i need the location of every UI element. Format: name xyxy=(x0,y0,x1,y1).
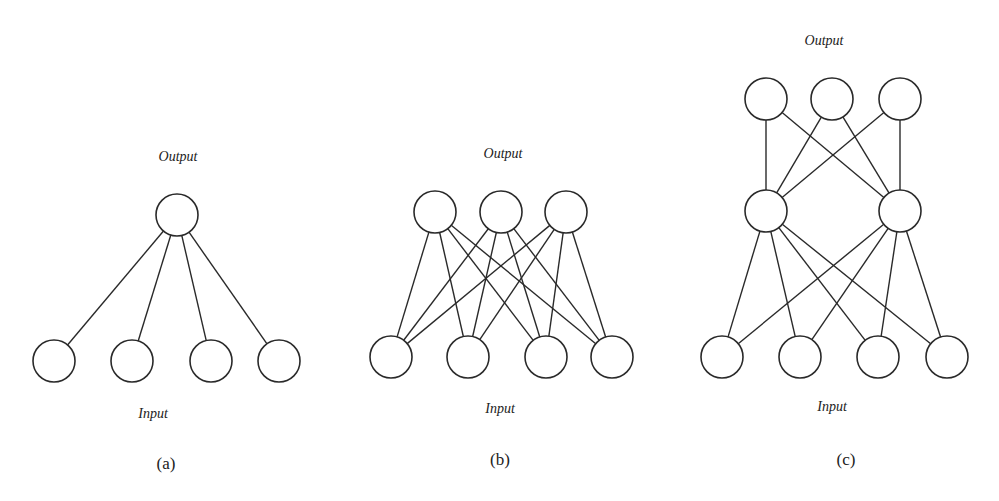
panel-b-edge xyxy=(451,225,596,343)
panel-c-edge xyxy=(738,224,884,343)
panel-c-edge xyxy=(782,224,930,344)
panel-c-caption: (c) xyxy=(837,450,856,469)
panel-b-output-node-1 xyxy=(414,191,456,233)
panel-a-edge xyxy=(189,232,267,344)
panel-c-hidden-node-2 xyxy=(879,190,921,232)
panel-b-output-node-3 xyxy=(545,191,587,233)
panel-c-hidden-node-1 xyxy=(745,190,787,232)
panel-b-input-label: Input xyxy=(484,401,516,416)
panel-b-edge xyxy=(397,232,429,337)
panel-c-edge xyxy=(771,231,795,336)
panel-b-output-node-2 xyxy=(480,191,522,233)
panel-a-input-node-4 xyxy=(258,340,300,382)
panel-a-edge xyxy=(68,231,164,345)
panel-a-edge xyxy=(138,235,171,341)
panel-a-input-node-3 xyxy=(190,340,232,382)
panel-c-input-node-3 xyxy=(857,336,899,378)
panel-b-edge xyxy=(407,225,550,343)
panel-b-input-node-2 xyxy=(447,336,489,378)
panel-b-edge xyxy=(514,229,599,341)
panel-b-input-node-1 xyxy=(370,336,412,378)
panel-c-input-node-2 xyxy=(779,336,821,378)
panel-a-input-node-2 xyxy=(111,340,153,382)
panel-a-output-label: Output xyxy=(159,149,199,164)
nodes xyxy=(33,78,968,382)
panel-c-output-node-3 xyxy=(879,78,921,120)
panel-b-input-node-4 xyxy=(591,336,633,378)
panel-a-output-node-1 xyxy=(156,194,198,236)
panel-c-input-label: Input xyxy=(816,399,848,414)
panel-c-input-node-1 xyxy=(701,336,743,378)
neural-network-figure: Output Input (a) Output Input (b) Output… xyxy=(0,0,999,501)
panel-c-output-node-2 xyxy=(811,78,853,120)
panel-a-input-label: Input xyxy=(137,406,169,421)
panel-c-edge xyxy=(812,228,888,339)
panel-b-output-label: Output xyxy=(484,146,524,161)
panel-b-edge xyxy=(440,232,464,336)
panel-a-caption: (a) xyxy=(157,454,176,473)
panel-b-edge xyxy=(572,232,605,337)
panel-c-output-node-1 xyxy=(745,78,787,120)
panel-a-input-node-1 xyxy=(33,340,75,382)
panel-c-edge xyxy=(881,232,897,336)
panel-b-caption: (b) xyxy=(490,450,510,469)
panel-c-edge xyxy=(906,231,940,337)
panel-c-input-node-4 xyxy=(926,336,968,378)
bleed-through-text xyxy=(20,392,23,407)
panel-c-edge xyxy=(728,231,760,337)
panel-b-input-node-3 xyxy=(525,336,567,378)
panel-c-edge xyxy=(843,117,889,193)
panel-c-edge xyxy=(777,117,822,193)
panel-c-output-label: Output xyxy=(805,33,845,48)
